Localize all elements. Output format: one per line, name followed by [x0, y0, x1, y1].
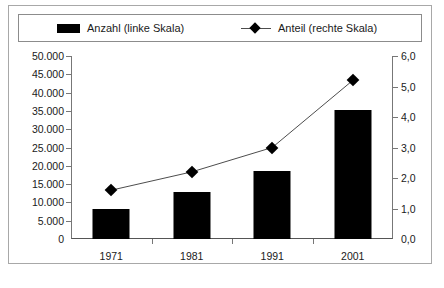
x-axis-tick [232, 239, 233, 244]
legend-label-anzahl: Anzahl (linke Skala) [87, 23, 184, 34]
y-right-tick [393, 148, 398, 149]
y-right-tick-label: 4,0 [401, 112, 416, 122]
y-left-tick-label: 15.000 [32, 179, 64, 189]
x-tick-label: 1981 [180, 250, 203, 262]
legend-entry-anzahl: Anzahl (linke Skala) [57, 15, 184, 41]
y-right-tick [393, 117, 398, 118]
y-left-tick-label: 0 [58, 234, 64, 244]
y-left-tick-label: 35.000 [32, 106, 64, 116]
y-left-tick-label: 5.000 [38, 216, 64, 226]
x-tick-label: 1971 [100, 250, 123, 262]
legend-line-diamond-icon [241, 23, 271, 34]
legend-bar-swatch-icon [57, 24, 80, 33]
y-right-tick-label: 3,0 [401, 143, 416, 153]
y-right-tick [393, 56, 398, 57]
y-right-tick [393, 87, 398, 88]
y-right-tick-label: 6,0 [401, 51, 416, 61]
y-right-tick [393, 209, 398, 210]
y-left-tick-label: 20.000 [32, 161, 64, 171]
chart-figure: Anzahl (linke Skala) Anteil (rechte Skal… [8, 5, 432, 264]
line-series-anteil [71, 56, 393, 239]
y-left-tick-label: 10.000 [32, 197, 64, 207]
plot-area: 05.00010.00015.00020.00025.00030.00035.0… [71, 56, 393, 239]
x-tick-label: 2001 [341, 250, 364, 262]
legend-entry-anteil: Anteil (rechte Skala) [241, 15, 377, 41]
y-left-tick-label: 40.000 [32, 88, 64, 98]
x-tick-label: 1991 [261, 250, 284, 262]
y-right-tick-label: 1,0 [401, 204, 416, 214]
y-left-tick-label: 30.000 [32, 124, 64, 134]
y-left-tick-label: 45.000 [32, 69, 64, 79]
x-axis-tick [152, 239, 153, 244]
y-right-tick-label: 2,0 [401, 173, 416, 183]
y-left-tick-label: 25.000 [32, 143, 64, 153]
y-right-tick [393, 178, 398, 179]
y-right-tick-label: 5,0 [401, 82, 416, 92]
legend-label-anteil: Anteil (rechte Skala) [278, 23, 377, 34]
y-right-tick-label: 0,0 [401, 234, 416, 244]
chart-legend: Anzahl (linke Skala) Anteil (rechte Skal… [18, 14, 422, 42]
y-left-tick-label: 50.000 [32, 51, 64, 61]
x-axis-tick [313, 239, 314, 244]
